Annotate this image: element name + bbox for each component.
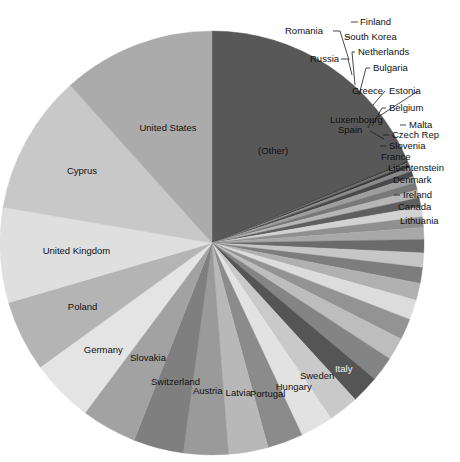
pie-label-portugal: Portugal [250, 388, 285, 399]
pie-label-united-kingdom: United Kingdom [43, 245, 111, 256]
pie-label-bulgaria: Bulgaria [373, 62, 409, 73]
pie-label-spain: Spain [338, 124, 362, 135]
pie-label-russia: Russia [310, 53, 340, 64]
pie-label-switzerland: Switzerland [151, 376, 200, 387]
pie-label-belgium: Belgium [389, 102, 423, 113]
leader-line-russia [341, 59, 352, 75]
pie-label-netherlands: Netherlands [358, 46, 409, 57]
pie-label-finland: Finland [360, 16, 391, 27]
pie-label-denmark: Denmark [393, 174, 432, 185]
pie-label-poland: Poland [68, 301, 98, 312]
pie-label-cyprus: Cyprus [67, 165, 97, 176]
pie-chart-svg: (Other)FinlandSouth KoreaRomaniaRussiaNe… [0, 0, 460, 462]
pie-label-estonia: Estonia [389, 85, 421, 96]
pie-label-lithuania: Lithuania [400, 215, 439, 226]
pie-label-south-korea: South Korea [344, 31, 398, 42]
pie-label-france: France [381, 151, 411, 162]
pie-label-czech-rep: Czech Rep [392, 129, 439, 140]
pie-label-slovenia: Slovenia [389, 140, 426, 151]
pie-label-sweden: Sweden [300, 370, 334, 381]
pie-label-united-states: United States [139, 122, 196, 133]
pie-label-germany: Germany [84, 344, 123, 355]
pie-label-canada: Canada [398, 201, 432, 212]
pie-label-greece: Greece [352, 85, 383, 96]
pie-label-ireland: Ireland [403, 189, 432, 200]
pie-label-romania: Romania [285, 25, 324, 36]
leader-line-netherlands [352, 52, 355, 85]
pie-label-slovakia: Slovakia [130, 352, 167, 363]
pie-label-other: (Other) [258, 145, 288, 156]
pie-label-latvia: Latvia [226, 387, 252, 398]
pie-chart-figure: (Other)FinlandSouth KoreaRomaniaRussiaNe… [0, 0, 460, 462]
pie-label-liechtenstein: Liechtenstein [388, 162, 444, 173]
pie-label-italy: Italy [335, 363, 353, 374]
